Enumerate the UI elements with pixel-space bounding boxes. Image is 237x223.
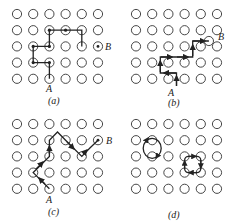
label-a-start: A (45, 83, 53, 94)
lattice-grid (131, 119, 221, 193)
lattice-grid (12, 9, 102, 83)
path-c (33, 132, 98, 189)
path-a (33, 30, 82, 79)
loop-small (143, 138, 161, 158)
path-b (160, 41, 209, 86)
label-c-start: A (45, 194, 53, 205)
panel-d: (d) (131, 119, 221, 221)
loop-square (185, 156, 201, 172)
caption-d: (d) (168, 209, 180, 221)
label-a-end: B (105, 41, 111, 52)
label-b-end: B (218, 31, 224, 42)
lattice-grid (12, 119, 102, 193)
panel-b: A B (b) (131, 9, 224, 109)
caption-a: (a) (48, 95, 60, 107)
caption-c: (c) (48, 206, 60, 218)
lattice-path-figure: A B (a) A B (b) A B (c) (0, 0, 237, 223)
lattice-grid (131, 9, 221, 83)
site-c-end (97, 139, 100, 142)
panel-a: A B (a) (12, 9, 111, 107)
label-c-end: B (106, 135, 112, 146)
caption-b: (b) (168, 97, 180, 109)
site-b-marker (97, 45, 100, 48)
panel-c: A B (c) (12, 119, 112, 218)
